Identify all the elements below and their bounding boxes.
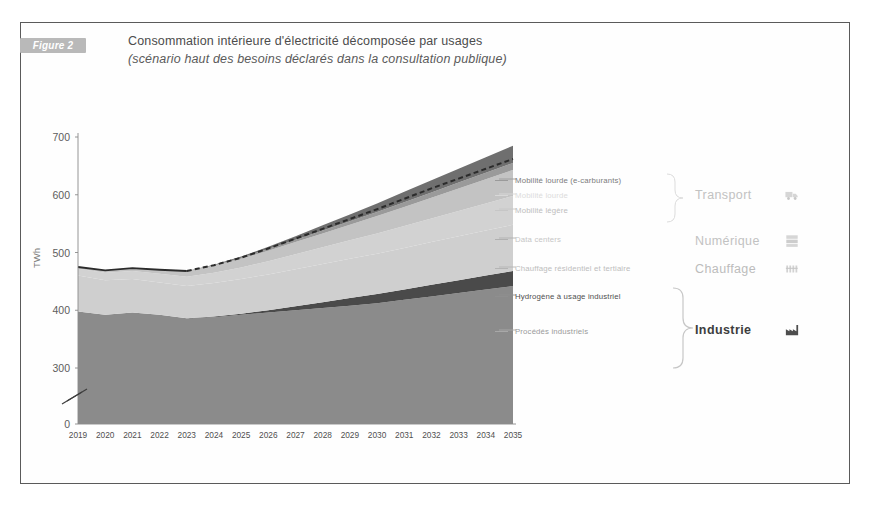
figure-subtitle: (scénario haut des besoins déclarés dans… — [128, 50, 608, 68]
legend-group-label: Chauffage — [695, 262, 756, 276]
server-icon — [785, 234, 799, 248]
truck-icon — [785, 188, 799, 202]
chart-legend: Mobilité lourde (e-carburants)Mobilité l… — [495, 160, 865, 375]
radiator-icon — [785, 262, 799, 276]
bracket-transport — [667, 174, 683, 222]
legend-group-label: Industrie — [695, 323, 751, 337]
legend-group-label: Transport — [695, 188, 752, 202]
figure-page: Figure 2 Consommation intérieure d'élect… — [0, 0, 874, 517]
bracket-industrie — [673, 288, 693, 368]
legend-group-label: Numérique — [695, 234, 760, 248]
figure-header: Figure 2 Consommation intérieure d'élect… — [20, 36, 620, 86]
figure-title: Consommation intérieure d'électricité dé… — [128, 32, 608, 50]
legend-brackets — [495, 160, 865, 375]
figure-title-block: Consommation intérieure d'électricité dé… — [128, 32, 608, 68]
factory-icon — [785, 323, 799, 337]
figure-number-badge: Figure 2 — [20, 38, 86, 53]
